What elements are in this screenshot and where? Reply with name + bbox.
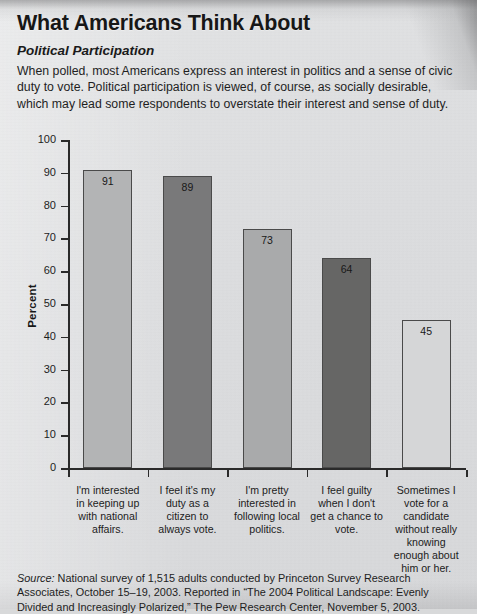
y-tick [61,271,68,273]
source-note: Source: National survey of 1,515 adults … [17,571,463,614]
bar-chart: Percent 0102030405060708090100 918973644… [0,130,477,550]
y-axis-line [68,140,70,468]
y-tick-label: 40 [22,330,56,342]
y-tick [61,337,68,339]
bar-value-label: 89 [164,181,211,193]
bar-value-label: 45 [403,325,450,337]
y-tick-label: 30 [22,363,56,375]
bar: 45 [402,320,451,468]
bar-value-label: 91 [84,175,131,187]
y-tick-label: 0 [22,461,56,473]
intro-paragraph: When polled, most Americans express an i… [17,63,461,112]
page-subtitle: Political Participation [17,43,154,58]
y-tick-label: 70 [22,231,56,243]
y-tick-label: 50 [22,297,56,309]
source-text: National survey of 1,515 adults conducte… [17,572,429,613]
y-tick [61,238,68,240]
x-axis-line [68,468,466,470]
x-tick [307,470,309,477]
y-tick [61,173,68,175]
category-label: I feel guilty when I don't get a chance … [310,484,384,536]
category-label: Sometimes I vote for a candidate without… [389,484,463,575]
y-tick [61,402,68,404]
category-label: I'm pretty interested in following local… [230,484,304,536]
plot-area: 0102030405060708090100 9189736445 I'm in… [68,140,466,468]
y-tick-label: 90 [22,166,56,178]
x-tick [386,470,388,477]
y-tick [61,435,68,437]
x-tick [466,470,468,477]
y-tick-label: 10 [22,428,56,440]
bar-value-label: 64 [323,263,370,275]
bar: 89 [163,176,212,468]
x-tick [227,470,229,477]
y-tick-label: 20 [22,395,56,407]
page-title: What Americans Think About [17,11,310,36]
bar: 73 [243,229,292,468]
x-tick [68,470,70,477]
y-tick [61,370,68,372]
y-tick-label: 100 [22,133,56,145]
y-tick [61,304,68,306]
bar-value-label: 73 [244,234,291,246]
y-tick [61,468,68,470]
bar: 64 [322,258,371,468]
x-tick [148,470,150,477]
bar: 91 [83,170,132,468]
y-tick-label: 60 [22,264,56,276]
y-tick [61,140,68,142]
category-label: I'm interested in keeping up with nation… [71,484,145,536]
y-tick-label: 80 [22,199,56,211]
source-label: Source: [17,572,55,584]
y-tick [61,206,68,208]
category-label: I feel it's my duty as a citizen to alwa… [151,484,225,536]
